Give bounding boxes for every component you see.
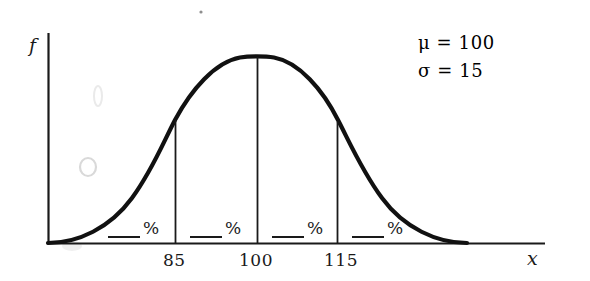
scan-smudge-left [80,158,96,176]
scan-smudge-upper-left [94,86,102,106]
x-tick-label-115: 115 [324,252,358,269]
normal-distribution-figure: f x μ = 100 σ = 15 % % % % 85 100 115 [0,0,590,281]
y-axis-label: f [29,36,36,55]
percent-blank-3[interactable]: % [307,220,323,237]
x-axis-label: x [527,249,538,268]
percent-blank-1[interactable]: % [143,220,159,237]
x-tick-label-100: 100 [239,252,273,269]
parameter-annotations: μ = 100 σ = 15 [418,32,495,88]
mean-annotation: μ = 100 [418,32,495,53]
distribution-plot-svg [0,0,590,281]
percent-blank-2[interactable]: % [225,220,241,237]
percent-blank-4[interactable]: % [387,220,403,237]
sd-annotation: σ = 15 [418,60,495,81]
x-tick-label-85: 85 [163,252,186,269]
scan-speck-top [199,10,202,13]
